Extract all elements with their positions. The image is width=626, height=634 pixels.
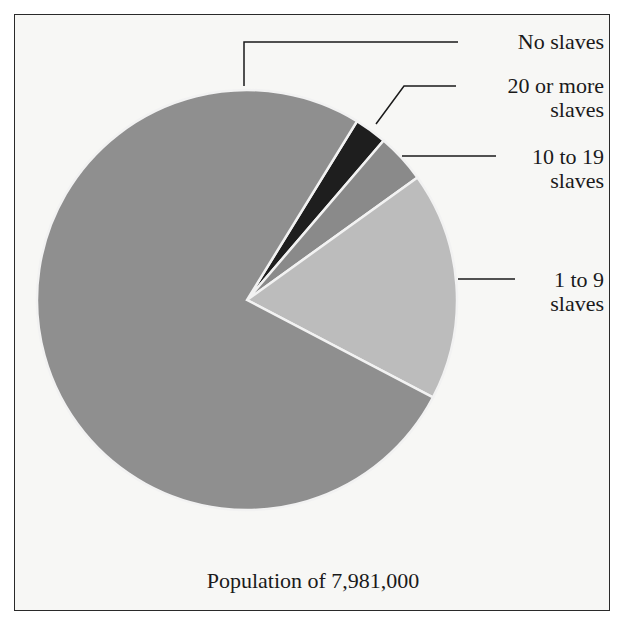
label-text: slaves — [550, 97, 604, 122]
label-text: No slaves — [518, 29, 604, 54]
leader-no-slaves — [244, 42, 458, 86]
label-text: slaves — [550, 291, 604, 316]
label-text: 10 to 19 — [532, 144, 604, 169]
label-text: 1 to 9 — [554, 267, 604, 292]
pie-slices — [37, 90, 457, 510]
label-1-9: 1 to 9slaves — [550, 268, 604, 316]
label-10-19: 10 to 19slaves — [532, 145, 604, 193]
label-20-plus: 20 or moreslaves — [507, 74, 604, 122]
chart-caption: Population of 7,981,000 — [0, 568, 626, 594]
label-text: slaves — [550, 168, 604, 193]
label-text: 20 or more — [507, 73, 604, 98]
leader-20-plus — [376, 86, 456, 124]
label-no-slaves: No slaves — [518, 30, 604, 54]
